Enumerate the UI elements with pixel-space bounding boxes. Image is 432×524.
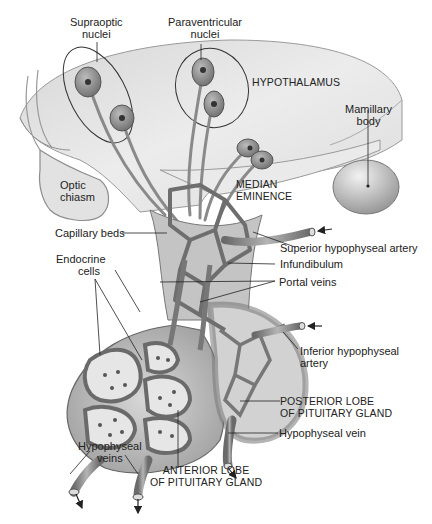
label-hypophyseal-veins: Hypophyseal veins	[78, 440, 142, 464]
label-median-line1: MEDIAN	[236, 178, 292, 190]
label-anterior-line1: ANTERIOR LOBE	[150, 464, 262, 476]
label-infundibulum: Infundibulum	[280, 258, 343, 270]
label-supraoptic-line2: nuclei	[70, 28, 123, 40]
label-optic-line2: chiasm	[60, 191, 95, 203]
label-endocrine-cells: Endocrine cells	[56, 253, 106, 277]
label-inferior-line1: Inferior hypophyseal	[300, 345, 399, 357]
label-paraventricular-line1: Paraventricular	[168, 16, 242, 28]
label-anterior-line2: OF PITUITARY GLAND	[150, 476, 262, 488]
label-capillary-beds: Capillary beds	[55, 227, 125, 239]
label-mamillary-line1: Mamillary	[345, 103, 392, 115]
label-hypophyseal-veins-line1: Hypophyseal	[78, 440, 142, 452]
label-paraventricular-line2: nuclei	[168, 28, 242, 40]
label-optic-line1: Optic	[60, 179, 95, 191]
label-portal-veins: Portal veins	[279, 276, 336, 288]
label-paraventricular-nuclei: Paraventricular nuclei	[168, 16, 242, 40]
label-optic-chiasm: Optic chiasm	[60, 179, 95, 203]
label-posterior-lobe: POSTERIOR LOBE OF PITUITARY GLAND	[280, 395, 392, 419]
label-endocrine-line2: cells	[56, 265, 106, 277]
label-anterior-lobe: ANTERIOR LOBE OF PITUITARY GLAND	[150, 464, 262, 488]
label-median-line2: EMINENCE	[236, 190, 292, 202]
label-hypophyseal-vein: Hypophyseal vein	[279, 427, 366, 439]
label-endocrine-line1: Endocrine	[56, 253, 106, 265]
label-hypophyseal-veins-line2: veins	[78, 452, 142, 464]
label-hypothalamus: HYPOTHALAMUS	[252, 76, 340, 88]
label-inferior-hypophyseal-artery: Inferior hypophyseal artery	[300, 345, 399, 369]
label-supraoptic-line1: Supraoptic	[70, 16, 123, 28]
pituitary-portal-diagram: Supraoptic nuclei Paraventricular nuclei…	[0, 0, 432, 524]
label-supraoptic-nuclei: Supraoptic nuclei	[70, 16, 123, 40]
label-posterior-line1: POSTERIOR LOBE	[280, 395, 392, 407]
label-mamillary-line2: body	[345, 115, 392, 127]
label-inferior-line2: artery	[300, 357, 399, 369]
label-superior-hypophyseal-artery: Superior hypophyseal artery	[280, 242, 418, 254]
label-median-eminence: MEDIAN EMINENCE	[236, 178, 292, 202]
label-posterior-line2: OF PITUITARY GLAND	[280, 407, 392, 419]
mamillary-body	[333, 160, 399, 214]
label-mamillary-body: Mamillary body	[345, 103, 392, 127]
